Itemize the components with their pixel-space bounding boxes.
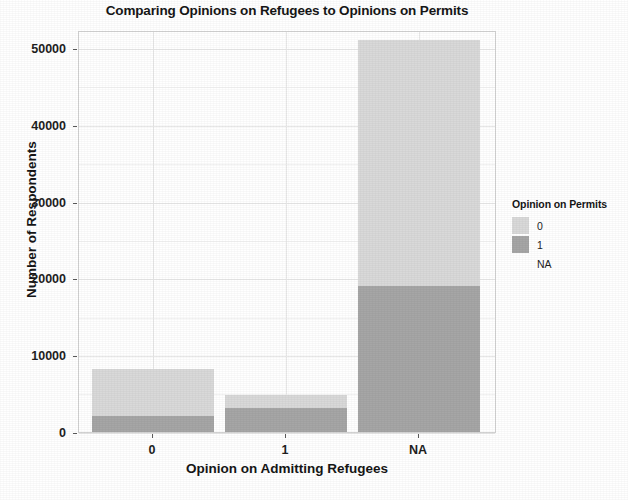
- legend: Opinion on Permits 0 1 NA: [512, 198, 624, 273]
- bar-segment-permits-1: [358, 286, 480, 432]
- x-tick-label-na: NA: [378, 443, 458, 457]
- plot-panel: [78, 31, 496, 433]
- bar-segment-permits-1: [92, 416, 214, 432]
- x-tick-label-0: 0: [112, 443, 192, 457]
- x-axis-title: Opinion on Admitting Refugees: [78, 461, 496, 476]
- legend-label-0: 0: [537, 220, 543, 232]
- y-tick-mark-10000: [73, 356, 77, 357]
- legend-label-1: 1: [537, 239, 543, 251]
- bar-segment-permits-0: [225, 395, 347, 408]
- legend-label-na: NA: [537, 258, 552, 270]
- legend-swatch-na: [512, 255, 529, 272]
- legend-swatch-1: [512, 236, 529, 253]
- gridline-vertical-cat-1: [286, 32, 287, 432]
- gridline-0: [79, 433, 495, 434]
- chart-title: Comparing Opinions on Refugees to Opinio…: [78, 3, 496, 18]
- y-tick-mark-30000: [73, 203, 77, 204]
- legend-swatch-0: [512, 217, 529, 234]
- y-tick-mark-50000: [73, 49, 77, 50]
- y-tick-mark-20000: [73, 279, 77, 280]
- bar-segment-permits-0: [92, 369, 214, 416]
- x-tick-mark-0: [152, 434, 153, 438]
- bar-category-0: [92, 369, 214, 432]
- bar-segment-permits-0: [358, 40, 480, 286]
- y-tick-label-10000: 10000: [6, 349, 66, 363]
- y-tick-label-50000: 50000: [6, 42, 66, 56]
- legend-title: Opinion on Permits: [512, 198, 624, 210]
- bar-category-na: [358, 40, 480, 432]
- bar-segment-permits-1: [225, 408, 347, 432]
- bar-category-1: [225, 395, 347, 432]
- y-tick-label-30000: 30000: [6, 196, 66, 210]
- y-tick-label-20000: 20000: [6, 272, 66, 286]
- y-tick-label-0: 0: [6, 426, 66, 440]
- x-tick-mark-na: [418, 434, 419, 438]
- y-tick-mark-0: [73, 433, 77, 434]
- legend-item-1: 1: [512, 235, 624, 254]
- legend-item-na: NA: [512, 254, 624, 273]
- x-tick-mark-1: [285, 434, 286, 438]
- y-tick-label-40000: 40000: [6, 119, 66, 133]
- chart-container: Comparing Opinions on Refugees to Opinio…: [0, 0, 628, 500]
- legend-item-0: 0: [512, 216, 624, 235]
- x-tick-label-1: 1: [245, 443, 325, 457]
- y-tick-mark-40000: [73, 126, 77, 127]
